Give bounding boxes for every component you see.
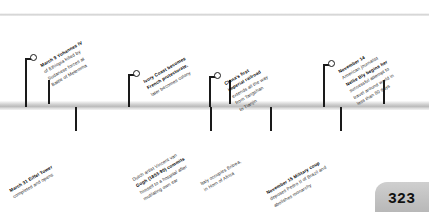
event-caption-brazil-coup: November 15 Military coup deposes Pedro … (265, 158, 332, 209)
leader-endpoint-circle (30, 54, 37, 61)
event-caption-nellie-bly: November 14 American journalist Nellie B… (337, 45, 400, 107)
event-caption-eiffel-tower: March 31 Eiffel Tower completed and open… (8, 164, 58, 201)
timeline-page: March 9 Yohannes IV of Ethiopia killed b… (0, 0, 429, 212)
page-number-label: 323 (388, 189, 416, 206)
timeline-tick-below (340, 107, 342, 131)
leader-stem (128, 75, 130, 107)
leader-stem (209, 77, 211, 107)
timeline-tick-below (270, 107, 272, 131)
timeline-tick-above (48, 80, 50, 104)
event-caption-ivory-coast: Ivory Coast becomes French protectorate,… (142, 55, 195, 98)
leader-stem (323, 65, 325, 107)
event-caption-eritrea: Italy occupies Eritrea, in Horn of Afric… (199, 158, 246, 194)
event-caption-van-gogh: Dutch artist Vincent van Gogh (1853-90) … (131, 149, 194, 202)
leader-endpoint-circle (214, 72, 221, 79)
top-divider-rule (0, 13, 429, 16)
page-number-tab: 323 (375, 182, 429, 212)
leader-stem (25, 59, 27, 107)
leader-endpoint-circle (133, 70, 140, 77)
timeline-tick-below (75, 107, 77, 131)
leader-endpoint-circle (328, 60, 335, 67)
timeline-tick-below (210, 107, 212, 131)
